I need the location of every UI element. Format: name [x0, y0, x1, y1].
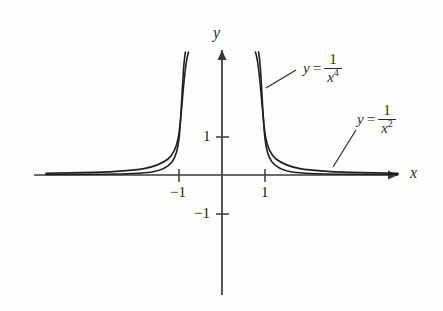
equation-label-inverse-quartic: y = 1 x4: [303, 52, 342, 85]
fraction-numerator-quartic: 1: [326, 52, 340, 68]
x-tick-label-minus-1: −1: [170, 184, 186, 201]
fraction-denominator-quartic: x4: [324, 69, 342, 85]
equation-lhs-quadratic: y: [357, 111, 364, 128]
fraction-numerator-quadratic: 1: [380, 103, 394, 119]
equation-equals-quartic: =: [313, 60, 321, 77]
graph-canvas: [0, 0, 443, 311]
curve-inverse-quartic-left: [46, 52, 185, 174]
denominator-base-quadratic: x: [381, 120, 388, 136]
y-tick-label-1: 1: [203, 128, 211, 145]
equation-label-inverse-square: y = 1 x2: [357, 103, 396, 136]
y-axis-arrowhead: [218, 50, 227, 60]
denominator-base-quartic: x: [327, 69, 334, 85]
denominator-exponent-quadratic: 2: [388, 118, 393, 129]
equation-equals-quadratic: =: [367, 111, 375, 128]
x-axis-label: x: [410, 164, 417, 182]
equation-lhs-quartic: y: [303, 60, 310, 77]
x-tick-label-1: 1: [261, 184, 269, 201]
denominator-exponent-quartic: 4: [334, 67, 339, 78]
curve-inverse-square-left: [46, 52, 189, 173]
fraction-denominator-quadratic: x2: [378, 120, 396, 136]
leader-line-quadratic: [333, 130, 356, 167]
leader-line-quartic: [266, 70, 296, 88]
fraction-quadratic: 1 x2: [378, 103, 396, 136]
figure-container: y x −1 1 1 −1 y = 1 x4 y = 1 x2: [0, 0, 443, 311]
fraction-quartic: 1 x4: [324, 52, 342, 85]
y-tick-label-minus-1: −1: [194, 205, 210, 222]
y-axis-label: y: [213, 24, 220, 42]
